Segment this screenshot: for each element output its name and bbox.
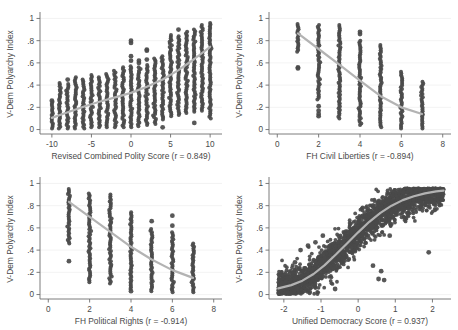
x-tick-label: 6	[399, 140, 404, 149]
y-tick-label: .2	[256, 103, 263, 112]
panel-polity-svg: 0.2.4.6.81-10-50510Revised Combined Poli…	[0, 0, 229, 165]
y-axis-label: V-Dem Polyarchy Index	[5, 194, 15, 282]
panel-political-rights-svg: 0.2.4.6.8102468FH Political Rights (r = …	[0, 165, 229, 330]
x-tick-label: 0	[46, 305, 51, 314]
y-tick-label: .8	[256, 37, 263, 46]
x-tick-label: 5	[168, 140, 173, 149]
y-tick-label: .2	[27, 103, 34, 112]
x-axis-label: Revised Combined Polity Score (r = 0.849…	[52, 151, 211, 161]
x-tick-label: 2	[430, 305, 435, 314]
y-tick-label: .2	[256, 268, 263, 277]
y-tick-label: 0	[258, 290, 263, 299]
data-points	[65, 187, 196, 294]
x-axis-label: Unified Democracy Score (r = 0.937)	[292, 316, 428, 326]
x-tick-label: 10	[206, 140, 216, 149]
x-tick-label: 4	[358, 140, 363, 149]
x-tick-label: 0	[129, 140, 134, 149]
data-points	[276, 187, 445, 296]
y-tick-label: .8	[256, 202, 263, 211]
y-tick-label: 1	[29, 14, 34, 23]
panel-civil-liberties-svg: 0.2.4.6.8102468FH Civil Liberties (r = -…	[229, 0, 458, 165]
y-tick-label: .2	[27, 268, 34, 277]
x-tick-label: 2	[316, 140, 321, 149]
y-tick-label: .4	[27, 81, 34, 90]
x-tick-label: 8	[211, 305, 216, 314]
x-tick-label: 8	[440, 140, 445, 149]
y-axis-label: V-Dem Polyarchy Index	[234, 29, 244, 117]
x-tick-label: -5	[88, 140, 96, 149]
y-tick-label: .6	[27, 224, 34, 233]
panel-political-rights: 0.2.4.6.8102468FH Political Rights (r = …	[0, 165, 229, 330]
y-tick-label: .8	[27, 202, 34, 211]
x-tick-label: 4	[129, 305, 134, 314]
x-tick-label: 0	[275, 140, 280, 149]
y-tick-label: .8	[27, 37, 34, 46]
panel-uds-svg: 0.2.4.6.81-2-1012Unified Democracy Score…	[229, 165, 458, 330]
y-axis-label: V-Dem Polyarchy Index	[5, 29, 15, 117]
y-tick-label: 1	[29, 179, 34, 188]
x-tick-label: -1	[317, 305, 325, 314]
data-points	[295, 22, 425, 130]
y-tick-label: 0	[258, 125, 263, 134]
y-tick-label: .6	[256, 59, 263, 68]
panel-polity-score: 0.2.4.6.81-10-50510Revised Combined Poli…	[0, 0, 229, 165]
y-tick-label: .4	[256, 81, 263, 90]
x-tick-label: -2	[280, 305, 288, 314]
y-tick-label: 0	[29, 125, 34, 134]
y-tick-label: .4	[27, 246, 34, 255]
y-tick-label: 0	[29, 290, 34, 299]
scatterplot-matrix-figure: 0.2.4.6.81-10-50510Revised Combined Poli…	[0, 0, 458, 330]
x-axis-label: FH Civil Liberties (r = -0.894)	[306, 151, 413, 161]
panel-unified-democracy-score: 0.2.4.6.81-2-1012Unified Democracy Score…	[229, 165, 458, 330]
panel-civil-liberties: 0.2.4.6.8102468FH Civil Liberties (r = -…	[229, 0, 458, 165]
y-tick-label: .6	[256, 224, 263, 233]
y-tick-label: .4	[256, 246, 263, 255]
x-tick-label: 0	[356, 305, 361, 314]
y-axis-label: V-Dem Polyarchy Index	[234, 194, 244, 282]
x-tick-label: 2	[87, 305, 92, 314]
y-tick-label: .6	[27, 59, 34, 68]
x-tick-label: -10	[46, 140, 58, 149]
data-points	[49, 21, 213, 131]
y-tick-label: 1	[258, 14, 263, 23]
x-tick-label: 1	[393, 305, 398, 314]
x-tick-label: 6	[170, 305, 175, 314]
x-axis-label: FH Political Rights (r = -0.914)	[75, 316, 188, 326]
y-tick-label: 1	[258, 179, 263, 188]
